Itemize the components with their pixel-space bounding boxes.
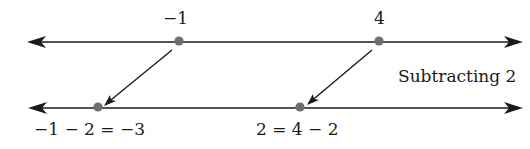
point-dot-minus-3	[93, 102, 102, 111]
top-label-4: 4	[374, 10, 385, 27]
point-dot-minus-1	[174, 36, 183, 45]
number-line-diagram: −1 4 Subtracting 2 −1 − 2 = −3 2 = 4 − 2	[0, 0, 530, 149]
bottom-label-minus-3: −1 − 2 = −3	[34, 121, 145, 138]
operation-label: Subtracting 2	[398, 68, 516, 85]
mapping-arrow-minus1-to-minus3	[106, 50, 172, 104]
top-number-line	[27, 36, 523, 48]
bottom-label-2: 2 = 4 − 2	[256, 121, 339, 138]
mapping-arrow-4-to-2	[309, 50, 372, 103]
point-dot-4	[374, 36, 383, 45]
point-dot-2	[295, 102, 304, 111]
top-label-minus-1: −1	[163, 10, 188, 27]
